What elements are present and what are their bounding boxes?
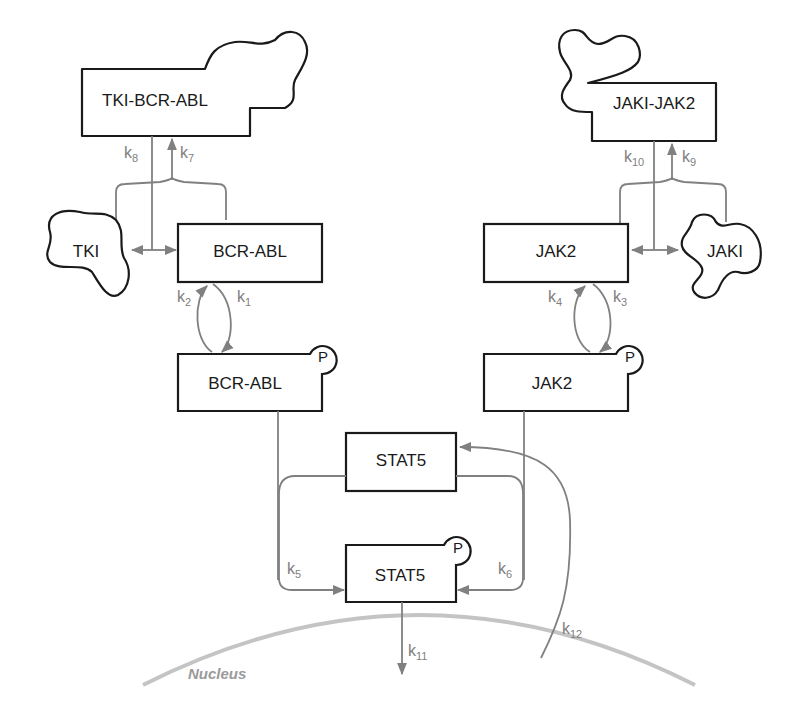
rate-k7: k7 [180,144,194,164]
node-tki-bcr-abl: TKI-BCR-ABL [82,32,307,136]
node-label: BCR-ABL [213,242,287,261]
rate-k11: k11 [408,642,427,662]
edge-k4 [574,286,590,352]
node-label: JAKI [707,242,743,261]
node-jak2-phospho: JAK2 P [484,346,643,411]
edge-k1 [213,284,231,352]
rate-k9: k9 [682,148,696,168]
rate-k10: k10 [624,148,644,168]
node-label: STAT5 [376,451,426,470]
node-stat5: STAT5 [346,433,456,491]
node-bcr-abl: BCR-ABL [178,224,322,282]
rate-k8: k8 [124,144,138,164]
phospho-tag: P [318,348,328,365]
rate-k3: k3 [613,288,627,308]
rate-k5: k5 [287,560,301,580]
node-label: TKI [73,242,99,261]
node-label: JAKI-JAK2 [613,94,695,113]
phospho-tag: P [625,348,635,365]
nucleus-label: Nucleus [188,665,246,682]
node-label: BCR-ABL [208,374,282,393]
node-label: JAK2 [532,374,573,393]
rate-k6: k6 [498,560,512,580]
node-tki: TKI [47,211,129,296]
node-jak2: JAK2 [484,224,628,282]
edge-k6 [456,476,523,590]
edge-k3 [593,284,610,352]
edge-k7-merge [116,178,226,223]
node-stat5-phospho: STAT5 P [346,537,471,602]
node-jaki-jak2: JAKI-JAK2 [559,30,716,141]
node-bcr-abl-phospho: BCR-ABL P [178,346,337,411]
node-label: JAK2 [536,242,577,261]
rate-k4: k4 [548,288,562,308]
node-label: TKI-BCR-ABL [102,91,208,110]
node-label: STAT5 [375,566,425,585]
edge-k2 [197,286,212,352]
edge-k12 [460,447,570,658]
pathway-diagram: Nucleus TKI-BCR-ABL k8 k7 TKI BCR-ABL k2… [0,0,797,723]
node-jaki: JAKI [682,215,761,298]
phospho-tag: P [453,539,463,556]
rate-k2: k2 [177,288,191,308]
rate-k12: k12 [562,620,582,640]
rate-k1: k1 [237,288,251,308]
